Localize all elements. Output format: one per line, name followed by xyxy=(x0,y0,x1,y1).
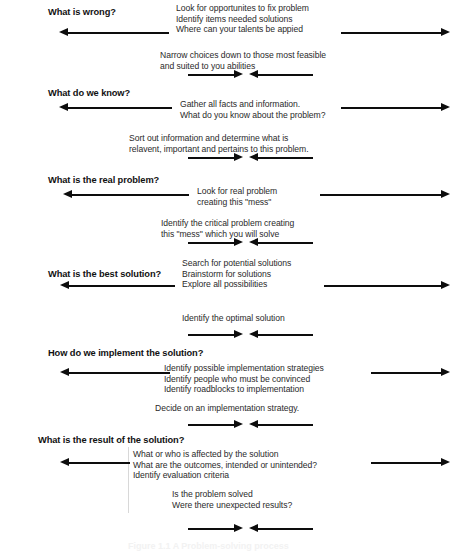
text-line: Identify items needed solutions xyxy=(176,14,309,25)
section-heading-what-is-the-result-of-the-solution: What is the result of the solution? xyxy=(38,436,184,445)
primary-text-what-is-the-real-problem: Look for real problem creating this "mes… xyxy=(197,186,277,207)
text-line: Where can your talents be appied xyxy=(176,24,309,35)
convergent-arrow-right-what-is-the-real-problem xyxy=(188,238,243,247)
convergent-arrow-left-what-is-the-best-solution xyxy=(249,330,313,339)
secondary-text-what-is-the-result-of-the-solution: Is the problem solved Were there unexpec… xyxy=(172,489,292,510)
text-line: Look for real problem xyxy=(197,186,277,197)
text-line: Gather all facts and information. xyxy=(180,99,325,110)
convergent-arrow-left-what-is-the-real-problem xyxy=(249,238,313,247)
section-heading-what-is-the-real-problem: What is the real problem? xyxy=(48,176,159,185)
text-line: What are the outcomes, intended or unint… xyxy=(133,460,317,471)
divergent-arrow-right-what-do-we-know xyxy=(341,103,450,112)
convergent-arrow-left-how-do-we-implement-the-solution xyxy=(249,420,313,429)
text-line: What do you know about the problem? xyxy=(180,110,325,121)
convergent-arrow-right-what-is-wrong xyxy=(188,70,243,79)
section-heading-what-is-wrong: What is wrong? xyxy=(48,8,116,17)
divergent-arrow-right-what-is-the-result-of-the-solution xyxy=(371,458,450,467)
convergent-arrow-left-what-is-wrong xyxy=(249,70,313,79)
text-line: Identify people who must be convinced xyxy=(164,374,324,385)
secondary-text-how-do-we-implement-the-solution: Decide on an implementation strategy. xyxy=(155,403,299,414)
primary-text-what-is-the-best-solution: Search for potential solutions Brainstor… xyxy=(182,258,291,290)
text-line: Were there unexpected results? xyxy=(172,500,292,511)
text-line: Identify evaluation criteria xyxy=(133,470,317,481)
text-line: Explore all possibilities xyxy=(182,279,291,290)
convergent-arrow-left-what-is-the-result-of-the-solution xyxy=(249,524,313,533)
faint-vertical-guide xyxy=(128,447,129,513)
secondary-text-what-is-wrong: Narrow choices down to those most feasib… xyxy=(160,50,326,71)
text-line: What or who is affected by the solution xyxy=(133,449,317,460)
text-line: Look for opportunites to fix problem xyxy=(176,3,309,14)
text-line: Narrow choices down to those most feasib… xyxy=(160,50,326,61)
primary-text-what-is-the-result-of-the-solution: What or who is affected by the solution … xyxy=(133,449,317,481)
text-line: creating this "mess" xyxy=(197,197,277,208)
text-line: Identify the optimal solution xyxy=(182,313,285,324)
secondary-text-what-is-the-real-problem: Identify the critical problem creating t… xyxy=(161,218,294,239)
divergent-arrow-right-what-is-the-best-solution xyxy=(324,281,450,290)
figure-caption: Figure 1.1 A Problem-solving process xyxy=(128,542,289,551)
secondary-text-what-do-we-know: Sort out information and determine what … xyxy=(129,133,309,154)
secondary-text-what-is-the-best-solution: Identify the optimal solution xyxy=(182,313,285,324)
text-line: Brainstorm for solutions xyxy=(182,269,291,280)
primary-text-what-is-wrong: Look for opportunites to fix problem Ide… xyxy=(176,3,309,35)
text-line: Identify roadblocks to implementation xyxy=(164,384,324,395)
text-line: Sort out information and determine what … xyxy=(129,133,309,144)
section-heading-what-is-the-best-solution: What is the best solution? xyxy=(48,270,161,279)
problem-solving-process-diagram: What is wrong? Look for opportunites to … xyxy=(0,0,454,551)
convergent-arrow-right-what-is-the-best-solution xyxy=(188,330,243,339)
divergent-arrow-right-how-do-we-implement-the-solution xyxy=(371,368,450,377)
text-line: Identify the critical problem creating xyxy=(161,218,294,229)
primary-text-how-do-we-implement-the-solution: Identify possible implementation strateg… xyxy=(164,363,324,395)
divergent-arrow-left-what-is-wrong xyxy=(59,28,169,37)
convergent-arrow-left-what-do-we-know xyxy=(249,153,313,162)
convergent-arrow-right-what-is-the-result-of-the-solution xyxy=(188,524,243,533)
divergent-arrow-left-what-is-the-real-problem xyxy=(63,190,189,199)
divergent-arrow-left-what-is-the-best-solution xyxy=(60,281,175,290)
divergent-arrow-right-what-is-wrong xyxy=(341,28,450,37)
text-line: Identify possible implementation strateg… xyxy=(164,363,324,374)
section-heading-how-do-we-implement-the-solution: How do we implement the solution? xyxy=(48,349,203,358)
text-line: Search for potential solutions xyxy=(182,258,291,269)
divergent-arrow-right-what-is-the-real-problem xyxy=(320,190,450,199)
section-heading-what-do-we-know: What do we know? xyxy=(48,89,130,98)
text-line: Decide on an implementation strategy. xyxy=(155,403,299,414)
divergent-arrow-left-what-is-the-result-of-the-solution xyxy=(60,458,130,467)
divergent-arrow-left-how-do-we-implement-the-solution xyxy=(60,368,170,377)
divergent-arrow-left-what-do-we-know xyxy=(59,103,172,112)
convergent-arrow-right-how-do-we-implement-the-solution xyxy=(188,420,243,429)
text-line: Is the problem solved xyxy=(172,489,292,500)
primary-text-what-do-we-know: Gather all facts and information. What d… xyxy=(180,99,325,120)
convergent-arrow-right-what-do-we-know xyxy=(188,153,243,162)
